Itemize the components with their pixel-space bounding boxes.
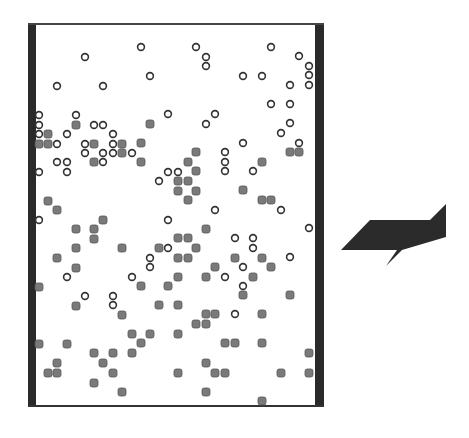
filled-particle bbox=[192, 187, 200, 195]
open-particle bbox=[64, 274, 71, 281]
filled-particle bbox=[72, 302, 80, 310]
open-particle bbox=[54, 83, 61, 90]
filled-particle bbox=[146, 330, 154, 338]
open-particle bbox=[240, 283, 247, 290]
filled-particle bbox=[211, 310, 219, 318]
filled-particle bbox=[118, 311, 126, 319]
open-particle bbox=[82, 54, 89, 61]
particles-layer bbox=[0, 0, 469, 438]
filled-particle bbox=[99, 359, 107, 367]
filled-particle bbox=[53, 359, 61, 367]
filled-particle bbox=[72, 225, 80, 233]
open-particle bbox=[306, 225, 313, 232]
open-particle bbox=[306, 82, 313, 89]
filled-particle bbox=[239, 186, 247, 194]
open-particle bbox=[73, 112, 80, 119]
open-particle bbox=[110, 131, 117, 138]
filled-particle bbox=[137, 139, 145, 147]
filled-particle bbox=[90, 225, 98, 233]
open-particle bbox=[36, 169, 43, 176]
filled-particle bbox=[202, 388, 210, 396]
open-particle bbox=[138, 44, 145, 51]
open-particle bbox=[147, 255, 154, 262]
open-particle bbox=[110, 293, 117, 300]
open-particle bbox=[278, 207, 285, 214]
filled-particle bbox=[90, 235, 98, 243]
open-particle bbox=[232, 235, 239, 242]
filled-particle bbox=[174, 177, 182, 185]
right-arrow-icon bbox=[341, 204, 446, 266]
filled-particle bbox=[258, 310, 266, 318]
open-particle bbox=[240, 264, 247, 271]
open-particle bbox=[222, 159, 229, 166]
filled-particle bbox=[267, 263, 275, 271]
open-particle bbox=[203, 63, 210, 70]
open-particle bbox=[147, 73, 154, 80]
open-particle bbox=[129, 274, 136, 281]
filled-particle bbox=[137, 282, 145, 290]
filled-particle bbox=[192, 244, 200, 252]
filled-particle bbox=[267, 196, 275, 204]
filled-particle bbox=[184, 177, 192, 185]
open-particle bbox=[64, 169, 71, 176]
filled-particle bbox=[137, 158, 145, 166]
filled-particle bbox=[231, 339, 239, 347]
filled-particle bbox=[305, 349, 313, 357]
open-particle bbox=[82, 150, 89, 157]
filled-particle bbox=[174, 369, 182, 377]
filled-particle bbox=[184, 234, 192, 242]
open-particle bbox=[193, 44, 200, 51]
filled-particle bbox=[221, 369, 229, 377]
filled-particle bbox=[174, 254, 182, 262]
filled-particle bbox=[295, 148, 303, 156]
open-particle bbox=[175, 169, 182, 176]
open-particle bbox=[287, 82, 294, 89]
open-particle bbox=[203, 121, 210, 128]
filled-particle bbox=[44, 369, 52, 377]
filled-particle bbox=[258, 339, 266, 347]
open-particle bbox=[259, 73, 266, 80]
open-particle bbox=[165, 111, 172, 118]
filled-particle bbox=[72, 264, 80, 272]
filled-particle bbox=[258, 158, 266, 166]
filled-particle bbox=[72, 121, 80, 129]
open-particle bbox=[82, 141, 89, 148]
filled-particle bbox=[286, 148, 294, 156]
filled-particle bbox=[155, 244, 163, 252]
open-particle bbox=[250, 235, 257, 242]
filled-particle bbox=[174, 273, 182, 281]
filled-particle bbox=[63, 340, 71, 348]
filled-particle bbox=[53, 206, 61, 214]
filled-particle bbox=[137, 339, 145, 347]
filled-particle bbox=[258, 196, 266, 204]
open-particle bbox=[147, 264, 154, 271]
filled-particle bbox=[184, 158, 192, 166]
open-particle bbox=[222, 274, 229, 281]
open-particle bbox=[156, 178, 163, 185]
filled-particle bbox=[174, 234, 182, 242]
filled-particle bbox=[128, 330, 136, 338]
open-particle bbox=[36, 217, 43, 224]
filled-particle bbox=[231, 254, 239, 262]
filled-particle bbox=[35, 283, 43, 291]
open-particle bbox=[54, 159, 61, 166]
open-particle bbox=[165, 169, 172, 176]
open-particle bbox=[64, 159, 71, 166]
filled-particle bbox=[90, 379, 98, 387]
open-particle bbox=[240, 140, 247, 147]
filled-particle bbox=[202, 320, 210, 328]
open-particle bbox=[250, 245, 257, 252]
open-particle bbox=[110, 141, 117, 148]
open-particle bbox=[100, 83, 107, 90]
filled-particle bbox=[192, 320, 200, 328]
open-particle bbox=[110, 302, 117, 309]
filled-particle bbox=[184, 196, 192, 204]
filled-particle bbox=[44, 130, 52, 138]
open-particle bbox=[250, 168, 257, 175]
filled-particle bbox=[202, 310, 210, 318]
open-particle bbox=[268, 44, 275, 51]
filled-particle bbox=[184, 254, 192, 262]
filled-particle bbox=[258, 397, 266, 405]
filled-particle bbox=[118, 149, 126, 157]
filled-particle bbox=[286, 291, 294, 299]
